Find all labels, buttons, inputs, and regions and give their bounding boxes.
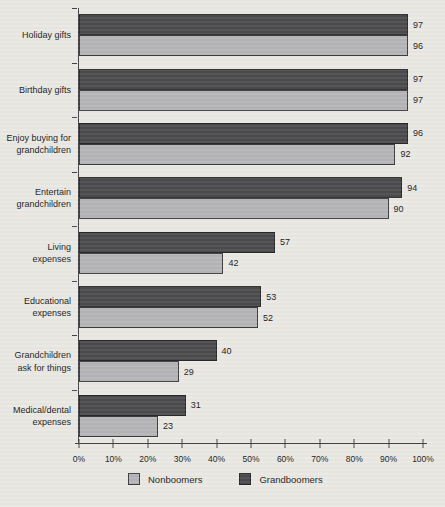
x-axis-tick-label: 60% <box>277 454 294 464</box>
bar-value-label: 96 <box>413 41 423 51</box>
grandboomers-swatch-icon <box>239 473 251 485</box>
category-label: Entertaingrandchildren <box>3 186 71 210</box>
legend-label-grandboomers: Grandboomers <box>259 474 322 485</box>
bar-grandboomers <box>79 123 408 144</box>
bar-nonboomers <box>79 90 408 111</box>
x-axis-tick-label: 80% <box>346 454 363 464</box>
category-label: Birthday gifts <box>3 83 71 95</box>
category-label: Medical/dentalexpenses <box>3 404 71 428</box>
bar-group-row: Educationalexpenses5352 <box>79 280 423 334</box>
x-axis-tick <box>388 439 389 448</box>
legend: Nonboomers Grandboomers <box>0 473 445 485</box>
bar-value-label: 42 <box>228 258 238 268</box>
bar-line: 52 <box>79 307 423 328</box>
x-axis-tick <box>319 439 320 448</box>
bar-line: 92 <box>79 144 423 165</box>
category-label: Enjoy buying forgrandchildren <box>3 132 71 156</box>
plot-area: Holiday gifts9796Birthday gifts9797Enjoy… <box>79 8 423 443</box>
bar-group-row: Birthday gifts9797 <box>79 62 423 116</box>
category-label: Grandchildrenask for things <box>3 349 71 373</box>
y-axis-tick <box>72 281 77 282</box>
y-axis-tick <box>72 390 77 391</box>
bar-nonboomers <box>79 35 408 56</box>
category-label: Livingexpenses <box>3 241 71 265</box>
category-label: Educationalexpenses <box>3 295 71 319</box>
x-axis-tick-label: 20% <box>139 454 156 464</box>
bar-line: 57 <box>79 232 423 253</box>
bar-grandboomers <box>79 14 408 35</box>
legend-label-nonboomers: Nonboomers <box>148 474 202 485</box>
x-axis-tick <box>423 439 424 448</box>
y-axis-tick <box>72 117 77 118</box>
bar-value-label: 53 <box>266 292 276 302</box>
x-axis-tick-label: 40% <box>208 454 225 464</box>
bar-line: 97 <box>79 69 423 90</box>
x-axis-tick <box>251 439 252 448</box>
x-axis-tick <box>147 439 148 448</box>
bar-line: 90 <box>79 198 423 219</box>
bar-value-label: 57 <box>280 237 290 247</box>
legend-item-nonboomers: Nonboomers <box>128 473 202 485</box>
x-axis-tick <box>79 439 80 448</box>
y-axis-tick <box>72 8 77 9</box>
bar-line: 53 <box>79 286 423 307</box>
bar-line: 94 <box>79 177 423 198</box>
bar-line: 29 <box>79 361 423 382</box>
x-axis-tick-label: 10% <box>105 454 122 464</box>
legend-item-grandboomers: Grandboomers <box>239 473 322 485</box>
nonboomers-swatch-icon <box>128 473 140 485</box>
bar-line: 96 <box>79 123 423 144</box>
x-axis-tick-label: 70% <box>311 454 328 464</box>
bar-group-row: Holiday gifts9796 <box>79 8 423 62</box>
bar-grandboomers <box>79 69 408 90</box>
bar-line: 23 <box>79 416 423 437</box>
bar-line: 31 <box>79 395 423 416</box>
bar-group-row: Enjoy buying forgrandchildren9692 <box>79 117 423 171</box>
bar-grandboomers <box>79 232 275 253</box>
y-axis-tick <box>72 172 77 173</box>
x-axis-tick <box>285 439 286 448</box>
bar-group-row: Livingexpenses5742 <box>79 226 423 280</box>
bar-grandboomers <box>79 395 186 416</box>
bar-group-row: Entertaingrandchildren9490 <box>79 171 423 225</box>
bar-value-label: 97 <box>413 95 423 105</box>
x-axis-tick-label: 30% <box>174 454 191 464</box>
y-axis-tick <box>72 335 77 336</box>
chart-rows: Holiday gifts9796Birthday gifts9797Enjoy… <box>79 8 423 443</box>
x-axis-tick <box>182 439 183 448</box>
bar-group-row: Grandchildrenask for things4029 <box>79 334 423 388</box>
bar-line: 97 <box>79 90 423 111</box>
bar-value-label: 97 <box>413 20 423 30</box>
bar-grandboomers <box>79 177 402 198</box>
bar-grandboomers <box>79 286 261 307</box>
bar-chart-figure: Holiday gifts9796Birthday gifts9797Enjoy… <box>0 0 445 507</box>
bar-value-label: 94 <box>407 183 417 193</box>
bar-value-label: 97 <box>413 74 423 84</box>
x-axis-tick-label: 50% <box>242 454 259 464</box>
bar-line: 96 <box>79 35 423 56</box>
x-axis-tick <box>354 439 355 448</box>
bar-value-label: 92 <box>400 149 410 159</box>
bar-line: 42 <box>79 253 423 274</box>
bar-nonboomers <box>79 307 258 328</box>
bar-line: 97 <box>79 14 423 35</box>
bar-nonboomers <box>79 144 395 165</box>
x-axis-tick-label: 0% <box>73 454 85 464</box>
x-axis-tick-label: 90% <box>380 454 397 464</box>
bar-nonboomers <box>79 416 158 437</box>
bar-value-label: 29 <box>184 367 194 377</box>
x-axis-tick-label: 100% <box>412 454 434 464</box>
bar-value-label: 31 <box>191 400 201 410</box>
x-axis-tick <box>113 439 114 448</box>
bar-grandboomers <box>79 340 217 361</box>
category-label: Holiday gifts <box>3 29 71 41</box>
bar-value-label: 52 <box>263 313 273 323</box>
bar-value-label: 23 <box>163 421 173 431</box>
bar-line: 40 <box>79 340 423 361</box>
bar-value-label: 40 <box>222 346 232 356</box>
bar-nonboomers <box>79 253 223 274</box>
bar-value-label: 90 <box>394 204 404 214</box>
bar-nonboomers <box>79 361 179 382</box>
y-axis-tick <box>72 226 77 227</box>
x-axis-tick <box>216 439 217 448</box>
